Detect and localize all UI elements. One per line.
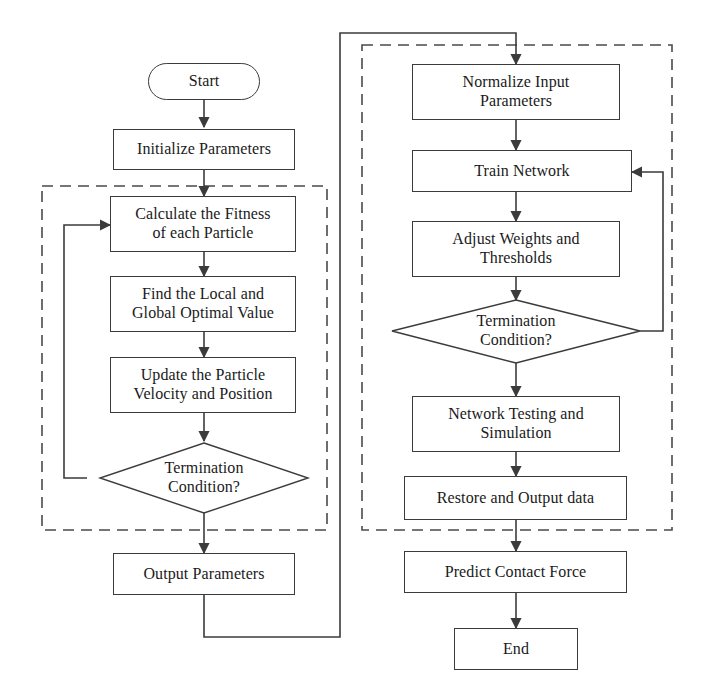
edge-feedback-left-loop bbox=[64, 225, 110, 478]
node-output-parameters-label: Output Parameters bbox=[143, 565, 264, 584]
edge-feedback-right-loop bbox=[632, 172, 663, 331]
node-initialize-parameters-label: Initialize Parameters bbox=[137, 140, 271, 159]
node-update-particle-label: Update the Particle Velocity and Positio… bbox=[134, 366, 273, 404]
node-train-network-label: Train Network bbox=[474, 162, 569, 181]
flowchart-canvas: Start Initialize Parameters Calculate th… bbox=[0, 0, 705, 689]
node-termination-left-label: Termination Condition? bbox=[164, 459, 243, 497]
node-update-particle[interactable]: Update the Particle Velocity and Positio… bbox=[110, 357, 296, 413]
node-find-optimal-label: Find the Local and Global Optimal Value bbox=[132, 285, 274, 323]
node-adjust-weights-label: Adjust Weights and Thresholds bbox=[452, 230, 579, 268]
node-train-network[interactable]: Train Network bbox=[412, 150, 632, 192]
node-normalize-input[interactable]: Normalize Input Parameters bbox=[412, 64, 620, 120]
node-adjust-weights[interactable]: Adjust Weights and Thresholds bbox=[412, 221, 620, 277]
node-output-parameters[interactable]: Output Parameters bbox=[113, 553, 295, 595]
node-network-testing-label: Network Testing and Simulation bbox=[448, 405, 584, 443]
node-end-label: End bbox=[503, 640, 529, 659]
node-normalize-input-label: Normalize Input Parameters bbox=[463, 73, 570, 111]
node-start-label: Start bbox=[189, 72, 220, 91]
node-find-optimal[interactable]: Find the Local and Global Optimal Value bbox=[110, 276, 296, 332]
node-predict-contact-force-label: Predict Contact Force bbox=[445, 563, 587, 582]
node-restore-output-label: Restore and Output data bbox=[437, 489, 594, 508]
node-predict-contact-force[interactable]: Predict Contact Force bbox=[404, 551, 627, 593]
node-end[interactable]: End bbox=[454, 628, 578, 670]
node-restore-output[interactable]: Restore and Output data bbox=[404, 476, 627, 520]
node-calculate-fitness-label: Calculate the Fitness of each Particle bbox=[135, 205, 270, 243]
node-start[interactable]: Start bbox=[148, 63, 260, 100]
node-calculate-fitness[interactable]: Calculate the Fitness of each Particle bbox=[110, 196, 296, 252]
node-network-testing[interactable]: Network Testing and Simulation bbox=[412, 396, 620, 452]
node-termination-right-label: Termination Condition? bbox=[476, 312, 555, 350]
node-termination-right: Termination Condition? bbox=[446, 303, 586, 359]
node-termination-left: Termination Condition? bbox=[134, 450, 274, 506]
node-initialize-parameters[interactable]: Initialize Parameters bbox=[113, 129, 295, 170]
